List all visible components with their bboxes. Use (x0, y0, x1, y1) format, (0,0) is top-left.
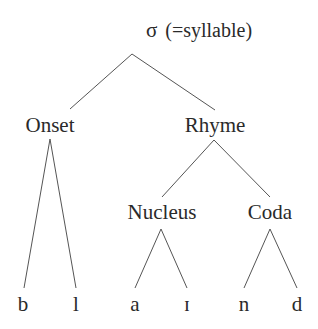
edge-rhyme-nucleus (162, 140, 214, 197)
edge-coda-n (244, 229, 270, 288)
leaf-a: a (130, 294, 139, 315)
edge-onset-b (24, 139, 50, 288)
leaf-d: d (292, 294, 303, 315)
edge-nucleus-i (161, 229, 187, 288)
root-node: σ(=syllable) (146, 20, 252, 41)
leaf-small-cap-i: ɪ (184, 294, 190, 315)
root-symbol: σ (146, 18, 157, 42)
leaf-b: b (18, 294, 29, 315)
onset-node: Onset (26, 115, 75, 136)
rhyme-node: Rhyme (185, 115, 246, 136)
leaf-l: l (73, 294, 79, 315)
edge-nucleus-a (135, 229, 161, 288)
leaf-n: n (239, 294, 250, 315)
edge-coda-d (270, 229, 297, 288)
edge-root-rhyme (132, 54, 215, 110)
coda-node: Coda (248, 202, 292, 223)
nucleus-node: Nucleus (128, 202, 197, 223)
edge-rhyme-coda (214, 140, 270, 197)
tree-edges (0, 0, 318, 329)
edge-root-onset (70, 54, 132, 109)
root-gloss: (=syllable) (165, 19, 252, 41)
edge-onset-l (50, 139, 76, 288)
